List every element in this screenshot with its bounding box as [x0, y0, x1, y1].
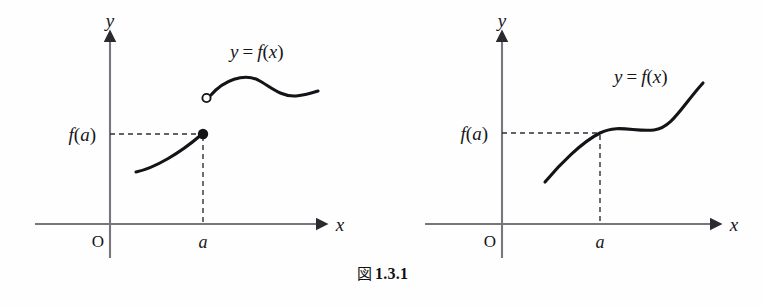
figure-1-3-1: y x O a f(a) y=f(x)	[0, 0, 765, 306]
curve-right-branch	[211, 77, 318, 96]
origin-label: O	[484, 232, 496, 251]
fa-close-paren: )	[90, 124, 96, 146]
graph-panel-discontinuous: y x O a f(a) y=f(x)	[0, 0, 383, 268]
curve-label-y-equals-fx: y=f(x)	[612, 66, 668, 88]
figure-caption: 図1.3.1	[0, 262, 765, 283]
tick-label-a: a	[596, 232, 605, 252]
origin-label: O	[92, 232, 104, 251]
fa-a: a	[80, 124, 90, 145]
curvelabel-eq: =	[242, 41, 253, 62]
graph-panel-continuous: y x O a f(a) y=f(x)	[382, 0, 765, 268]
curvelabel-y: y	[228, 41, 239, 62]
y-axis-label: y	[104, 10, 115, 31]
closed-point-marker	[198, 129, 208, 139]
curve-left-branch	[136, 135, 201, 172]
curvelabel-y: y	[612, 66, 623, 87]
fa-close-paren: )	[482, 123, 488, 145]
figure-caption-number: 1.3.1	[375, 265, 409, 282]
y-axis-label: y	[496, 10, 507, 31]
value-label-fa: f(a)	[461, 123, 488, 145]
open-point-marker	[202, 94, 210, 102]
value-label-fa: f(a)	[69, 124, 96, 146]
curvelabel-eq: =	[626, 66, 637, 87]
curve-label-y-equals-fx: y=f(x)	[228, 41, 284, 63]
tick-label-a: a	[199, 232, 208, 252]
curvelabel-close-paren: )	[661, 66, 667, 88]
fa-a: a	[472, 123, 482, 144]
figure-caption-mark: 図	[357, 265, 372, 283]
x-axis-label: x	[335, 214, 345, 235]
x-axis-label: x	[729, 214, 739, 235]
curvelabel-close-paren: )	[277, 41, 283, 63]
